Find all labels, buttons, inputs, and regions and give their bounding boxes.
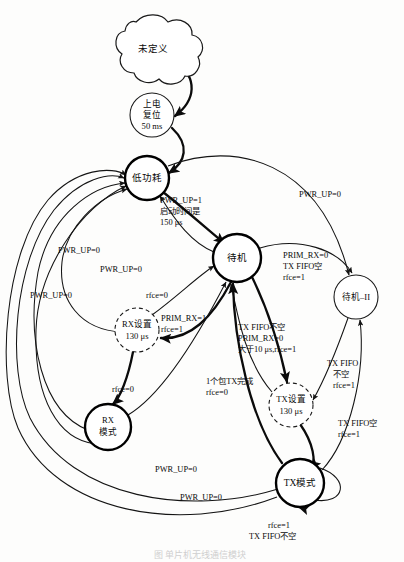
edge-label-group: PWR_UP=1 启动时间是 150 μs PWR_UP=0 PWR_UP=0 … — [30, 190, 377, 541]
node-tx-setup-line1: TX设置 — [276, 394, 305, 404]
label-tx-fifo-empty-right-line1: TX FIFO空 — [338, 418, 377, 428]
label-pwr-up-1-startup: PWR_UP=1 启动时间是 150 μs — [160, 196, 202, 227]
edge-reset-to-lowpower — [169, 128, 184, 173]
node-standby-ii-label: 待机–II — [342, 291, 370, 302]
node-power-on-reset-line1: 上电 — [143, 98, 161, 109]
label-pwr-up-1-startup-line1: PWR_UP=1 — [160, 196, 202, 205]
edge-group — [6, 62, 361, 515]
node-low-power[interactable]: 低功耗 — [125, 156, 169, 200]
node-rx-setup-line1: RX设置 — [122, 319, 152, 329]
state-machine-diagram: 未定义 上电 复位 50 ms 低功耗 待机 待机–II RX设置 130 — [0, 0, 404, 562]
node-undefined-label: 未定义 — [138, 43, 168, 54]
label-tx-self-loop-line2: TX FIFO不空 — [249, 531, 296, 541]
node-rx-mode[interactable]: RX 模式 — [85, 404, 131, 450]
node-rx-mode-line1: RX — [102, 415, 115, 425]
label-tx-fifo-not-empty-block-line1: TX FIFO不空 — [238, 322, 285, 332]
label-tx-fifo-not-empty-right-line3: rfce=1 — [333, 381, 355, 390]
label-tx-self-loop: rfce=1 TX FIFO不空 — [249, 521, 296, 541]
figure-caption: 图 单片机无线通信模块 — [154, 549, 246, 560]
edge-txmode-to-standbyii — [322, 320, 361, 470]
label-pwr-up-0-top-right: PWR_UP=0 — [299, 190, 341, 199]
node-rx-setup-line2: 130 μs — [126, 331, 150, 341]
node-power-on-reset[interactable]: 上电 复位 50 ms — [130, 93, 174, 137]
label-tx-self-loop-line1: rfce=1 — [268, 521, 290, 530]
node-power-on-reset-line2: 复位 — [143, 109, 161, 120]
node-standby-ii[interactable]: 待机–II — [334, 275, 378, 319]
label-pwr-up-0-mid: PWR_UP=0 — [100, 265, 142, 274]
node-tx-setup-line2: 130 μs — [280, 406, 304, 416]
label-tx-fifo-not-empty-block-line3: 大于10 μs,rfce=1 — [238, 344, 296, 354]
label-rfce-0-to-rx-mode: rfce=0 — [112, 385, 134, 394]
node-rx-mode-line2: 模式 — [99, 426, 117, 437]
label-pwr-up-1-startup-line2: 启动时间是 — [160, 206, 201, 216]
edge-rxsetup-to-rxmode — [113, 352, 133, 404]
node-rx-setup[interactable]: RX设置 130 μs — [115, 308, 159, 352]
node-tx-setup[interactable]: TX设置 130 μs — [269, 383, 313, 427]
node-tx-mode-label: TX模式 — [284, 477, 317, 488]
label-prim-rx-0-txfifo-empty-line1: PRIM_RX=0 — [283, 251, 328, 260]
label-rfce-0-to-standby: rfce=0 — [146, 291, 168, 300]
edge-txmode-to-standby — [233, 284, 282, 463]
label-tx-fifo-empty-right: TX FIFO空 rfce=1 — [338, 418, 377, 439]
label-prim-rx-1-rfce-1-line2: rfce=1 — [161, 325, 183, 334]
label-pwr-up-0-bottom-lower: PWR_UP=0 — [180, 493, 222, 502]
label-tx-fifo-not-empty-block-line2: PRIM_RX=0 — [238, 334, 283, 343]
label-pwr-up-0-upper-left: PWR_UP=0 — [58, 246, 100, 255]
label-pwr-up-0-lower-left: PWR_UP=0 — [30, 291, 72, 300]
label-one-packet-tx-done-line2: rfce=0 — [206, 388, 228, 397]
node-tx-mode[interactable]: TX模式 — [276, 459, 324, 507]
node-low-power-label: 低功耗 — [132, 172, 162, 183]
label-tx-fifo-not-empty-right-line2: 不空 — [333, 369, 349, 379]
node-standby-label: 待机 — [227, 252, 247, 263]
label-tx-fifo-not-empty-right-line1: TX FIFO — [327, 359, 358, 368]
label-prim-rx-0-txfifo-empty: PRIM_RX=0 TX FIFO空 rfce=1 — [283, 251, 328, 282]
edge-rxsetup-to-lowpower — [62, 189, 127, 332]
label-prim-rx-0-txfifo-empty-line2: TX FIFO空 — [283, 261, 322, 271]
label-one-packet-tx-done-line1: 1个包TX完成 — [206, 376, 254, 386]
node-power-on-reset-line3: 50 ms — [142, 121, 163, 131]
label-prim-rx-0-txfifo-empty-line3: rfce=1 — [283, 273, 305, 282]
label-tx-fifo-not-empty-block: TX FIFO不空 PRIM_RX=0 大于10 μs,rfce=1 — [238, 322, 296, 354]
label-tx-fifo-not-empty-right: TX FIFO 不空 rfce=1 — [327, 359, 358, 390]
node-undefined[interactable]: 未定义 — [116, 15, 203, 84]
label-tx-fifo-empty-right-line2: rfce=1 — [338, 430, 360, 439]
label-pwr-up-1-startup-line3: 150 μs — [160, 218, 182, 227]
node-standby[interactable]: 待机 — [213, 234, 261, 282]
label-prim-rx-1-rfce-1-line1: PRIM_RX=1 — [161, 314, 206, 323]
label-pwr-up-0-bottom-upper: PWR_UP=0 — [155, 465, 197, 474]
state-diagram-canvas: 未定义 上电 复位 50 ms 低功耗 待机 待机–II RX设置 130 — [0, 0, 404, 562]
